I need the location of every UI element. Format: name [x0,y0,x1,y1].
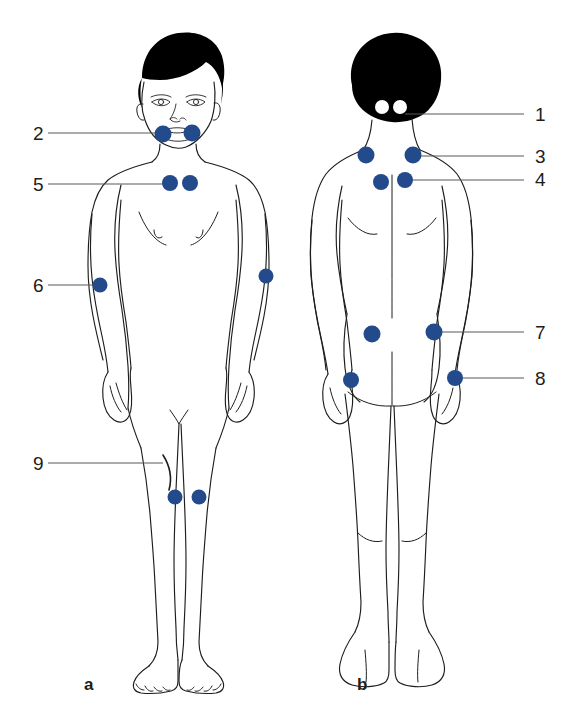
label-number-1: 1 [535,104,546,125]
anterior-nose [170,104,180,122]
posterior-arm-inner-right [432,200,444,370]
posterior-finger-lines-right [442,388,453,414]
knee-marker-arc [163,455,170,490]
anterior-pupil-left [158,99,163,104]
anterior-neck-right [196,144,205,162]
fibromyalgia-tender-point-figure: 123456789 ab [0,0,582,723]
anterior-hip-left [128,408,141,448]
label-number-9: 9 [33,453,44,474]
label-number-6: 6 [33,275,44,296]
anterior-groin [170,410,188,424]
posterior-leg-outer-right [423,394,439,632]
anterior-neck-left [152,144,160,162]
anterior-breast-left [139,212,166,245]
anterior-arm-outer-right [249,214,267,372]
posterior-heel-line-right [418,650,419,682]
tender-point-greater-trochanter-right[interactable] [447,370,463,386]
anterior-finger-lines-left [110,383,127,412]
occiput-mark-occiput-left[interactable] [375,100,389,114]
anterior-hand-right [225,368,254,422]
anterior-brow-right [186,95,206,97]
anterior-hand-left [103,368,132,422]
posterior-neck-right [412,119,420,150]
anterior-figure [88,32,269,693]
tender-point-gluteal-left[interactable] [364,326,381,343]
anterior-nipple-left [154,230,162,238]
posterior-arm-outer-left [311,220,329,374]
panel-letter-b: b [357,675,367,694]
posterior-gluteal-fold-left [348,392,391,406]
tender-point-lateral-epicondyle-right[interactable] [259,269,274,284]
anterior-head-outline [142,82,215,148]
figure-canvas: 123456789 ab [0,0,582,723]
label-number-3: 3 [535,146,546,167]
posterior-leg-inner-right [394,406,399,642]
anterior-nostril-left [170,118,177,120]
label-number-2: 2 [33,123,44,144]
anterior-toes-right [187,684,221,691]
anterior-leg-inner-left [174,424,179,660]
tender-point-greater-trochanter-left[interactable] [343,372,359,388]
tender-point-dots-group [93,125,464,505]
anterior-arm-outer-left [91,214,109,372]
posterior-figure [310,33,472,687]
posterior-arm-outer-right [455,220,473,374]
tender-point-supraspinatus-right[interactable] [397,172,413,188]
anterior-finger-lines-right [230,383,247,412]
tender-point-medial-knee-left[interactable] [168,490,183,505]
tender-point-low-cervical-right[interactable] [184,125,201,142]
label-number-7: 7 [535,322,546,343]
posterior-scapula-right [407,218,436,234]
anterior-arm-inner-left [119,200,131,368]
posterior-neck-left [363,120,372,150]
anterior-nipple-right [196,230,203,238]
posterior-scapula-left [348,218,377,234]
label-number-4: 4 [535,169,546,190]
label-number-8: 8 [535,368,546,389]
tender-point-lateral-epicondyle-left[interactable] [93,278,108,293]
anterior-leg-inner-right [181,424,186,660]
tender-point-trapezius-right[interactable] [405,147,422,164]
anterior-leg-outer-left [141,448,158,666]
tender-point-trapezius-left[interactable] [358,147,375,164]
label-numbers-group: 123456789 [33,104,546,474]
tender-point-low-cervical-left[interactable] [155,126,172,143]
tender-point-second-rib-left[interactable] [162,175,178,191]
anterior-arm-inner-right [226,200,238,368]
tender-point-medial-knee-right[interactable] [192,490,207,505]
label-number-5: 5 [33,174,44,195]
anterior-brow-left [151,95,171,97]
panel-letters-group: ab [84,675,367,694]
anterior-hip-right [216,408,229,448]
anterior-toes-left [136,684,170,691]
tender-point-gluteal-right[interactable] [426,324,443,341]
occiput-mark-occiput-right[interactable] [393,100,407,114]
anterior-pupil-right [193,99,198,104]
posterior-finger-lines-left [330,388,341,414]
posterior-leg-outer-left [345,394,361,632]
tender-point-second-rib-right[interactable] [182,175,198,191]
tender-point-supraspinatus-left[interactable] [373,174,389,190]
anterior-nostril-right [180,118,186,120]
posterior-gluteal-fold-right [393,392,436,406]
posterior-leg-inner-left [386,406,391,642]
anterior-leg-outer-right [199,448,216,666]
posterior-foot-right [395,632,445,687]
posterior-arm-inner-left [340,200,352,370]
posterior-torso-left [310,150,363,370]
panel-letter-a: a [84,675,94,694]
anterior-breast-right [191,212,218,245]
posterior-knee-crease-left [358,533,382,542]
posterior-knee-crease-right [402,533,426,542]
